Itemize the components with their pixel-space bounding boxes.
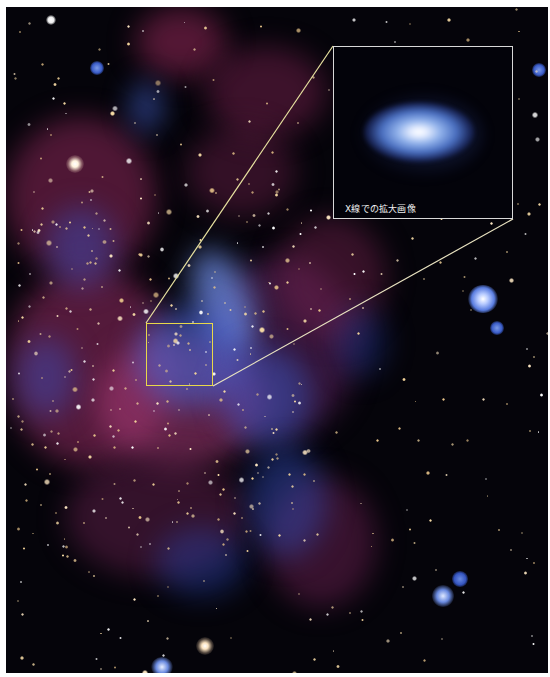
star	[379, 368, 381, 370]
star	[532, 112, 538, 118]
star	[73, 559, 76, 562]
star	[143, 309, 148, 314]
star	[81, 201, 84, 204]
star	[267, 212, 270, 215]
star	[262, 246, 264, 248]
star	[349, 612, 351, 614]
star	[540, 393, 543, 396]
star	[62, 554, 64, 556]
star	[101, 498, 103, 500]
star	[65, 113, 67, 115]
star	[286, 208, 289, 211]
star	[262, 310, 264, 312]
star	[301, 222, 303, 224]
dust-cloud	[186, 127, 296, 217]
xray-emission	[156, 527, 246, 597]
star	[215, 460, 218, 463]
star	[245, 449, 250, 454]
star	[248, 120, 251, 123]
star	[526, 558, 528, 560]
star	[17, 242, 20, 245]
star	[306, 449, 311, 454]
xray-point-source	[452, 571, 468, 587]
star	[69, 310, 71, 312]
star	[65, 545, 68, 548]
star	[244, 312, 247, 315]
star	[233, 348, 236, 351]
star	[153, 98, 155, 100]
star	[98, 48, 101, 51]
bright-star	[196, 637, 214, 655]
star	[309, 618, 312, 621]
star	[112, 435, 115, 438]
bright-star	[66, 155, 84, 173]
star	[466, 439, 469, 442]
star	[186, 388, 188, 390]
star	[20, 428, 23, 431]
star	[153, 410, 155, 412]
star	[442, 398, 445, 401]
star	[56, 521, 59, 524]
star	[219, 398, 222, 401]
star	[109, 228, 112, 231]
star	[470, 309, 472, 311]
star	[482, 398, 485, 401]
star	[318, 309, 321, 312]
star	[262, 476, 264, 478]
star	[463, 276, 466, 279]
star	[199, 239, 202, 242]
star	[412, 576, 417, 581]
star	[246, 221, 248, 223]
xray-source-sgr-a	[364, 102, 474, 162]
star	[134, 420, 137, 423]
star	[52, 97, 55, 100]
star	[13, 73, 15, 75]
star	[518, 31, 520, 33]
star	[156, 402, 159, 405]
star	[162, 654, 165, 657]
star	[100, 633, 102, 635]
star	[250, 259, 252, 261]
star	[223, 390, 226, 393]
star	[174, 432, 176, 434]
star	[49, 281, 53, 285]
star	[360, 610, 363, 613]
star	[386, 639, 389, 642]
star	[272, 226, 276, 230]
star	[237, 242, 239, 244]
star	[299, 233, 302, 236]
star	[72, 387, 77, 392]
star	[107, 628, 110, 631]
xray-emission	[16, 337, 76, 417]
star	[36, 231, 39, 234]
star	[246, 550, 248, 552]
star	[41, 63, 44, 66]
star	[531, 635, 533, 637]
star	[19, 31, 21, 33]
star	[429, 519, 432, 522]
star	[398, 427, 401, 430]
star	[147, 255, 150, 258]
star	[17, 600, 19, 602]
star	[250, 347, 252, 349]
star	[524, 233, 526, 235]
star	[286, 328, 289, 331]
star	[133, 598, 136, 601]
star	[186, 482, 189, 485]
star	[17, 527, 20, 530]
dust-cloud	[136, 7, 226, 77]
star	[417, 439, 420, 442]
star	[396, 259, 399, 262]
star	[336, 665, 339, 668]
star	[528, 364, 531, 367]
star	[91, 398, 95, 402]
star	[353, 273, 356, 276]
star	[445, 474, 447, 476]
star	[199, 310, 204, 315]
star	[103, 219, 106, 222]
star	[53, 83, 56, 86]
star	[28, 22, 30, 24]
xray-inset-panel: X線での拡大画像	[333, 46, 513, 219]
star	[89, 308, 91, 310]
star	[331, 606, 334, 609]
